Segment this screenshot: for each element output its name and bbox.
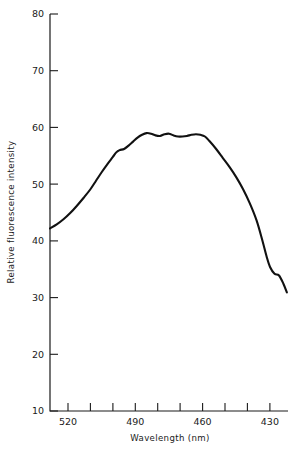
x-ticklabel-490: 490	[126, 416, 144, 427]
y-ticklabel-80: 80	[32, 8, 44, 19]
chart-svg: 80 70 60 50 40 30 20 10 520 490 460	[0, 0, 299, 454]
x-axis-title: Wavelength (nm)	[130, 433, 209, 443]
y-ticklabel-60: 60	[32, 122, 44, 133]
y-axis-title: Relative fluorescence intensity	[6, 141, 16, 284]
chart-background	[0, 0, 299, 454]
y-ticklabel-30: 30	[32, 292, 44, 303]
y-ticklabel-70: 70	[32, 65, 44, 76]
fluorescence-spectrum-chart: 80 70 60 50 40 30 20 10 520 490 460	[0, 0, 299, 454]
y-ticklabel-10: 10	[32, 405, 44, 416]
y-ticklabel-50: 50	[32, 179, 44, 190]
x-ticklabel-520: 520	[59, 416, 77, 427]
x-ticklabel-430: 430	[261, 416, 279, 427]
x-ticklabel-460: 460	[194, 416, 212, 427]
y-ticklabel-40: 40	[32, 235, 44, 246]
y-ticklabel-20: 20	[32, 349, 44, 360]
